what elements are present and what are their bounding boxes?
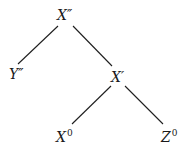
node-mark: 0: [172, 128, 178, 138]
edge-xpp-ypp: [18, 26, 58, 64]
node-base: X: [57, 7, 67, 23]
node-x-double-prime: X″: [57, 7, 72, 23]
node-base: X: [56, 129, 66, 145]
edge-xpp-xp: [73, 26, 112, 66]
tree-diagram: X″ Y″ X′ X0 Z0: [0, 0, 187, 148]
node-base: X: [111, 69, 121, 85]
node-z-zero: Z0: [161, 125, 177, 145]
edge-xp-x0: [72, 86, 111, 124]
tree-edges: [0, 0, 187, 148]
node-mark: ″: [18, 66, 23, 82]
node-base: Z: [161, 129, 171, 145]
node-base: Y: [9, 66, 18, 82]
node-mark: ″: [67, 7, 72, 23]
node-y-double-prime: Y″: [9, 66, 23, 82]
edge-xp-z0: [125, 86, 163, 124]
node-x-zero: X0: [56, 125, 73, 145]
node-x-prime: X′: [111, 69, 124, 85]
node-mark: 0: [67, 128, 73, 138]
node-mark: ′: [121, 69, 124, 85]
